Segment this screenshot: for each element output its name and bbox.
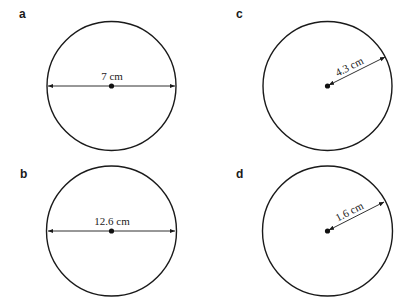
panel-a: a 7 cm: [19, 7, 176, 151]
center-dot-d: [325, 228, 330, 233]
measurement-label-a: 7 cm: [101, 70, 123, 82]
measurement-label-b: 12.6 cm: [94, 215, 130, 227]
panel-c: c 4.3 cm: [236, 7, 392, 151]
center-dot-c: [325, 83, 330, 88]
panel-label-b: b: [20, 167, 27, 181]
center-dot-b: [109, 228, 114, 233]
center-dot-a: [109, 83, 114, 88]
panel-b: b 12.6 cm: [20, 166, 177, 296]
panel-label-d: d: [236, 167, 243, 181]
panel-label-c: c: [236, 7, 243, 21]
panel-label-a: a: [19, 7, 26, 21]
circle-diagrams: a 7 cm b 12.6 cm c 4.3 cm d 1.6 cm: [0, 0, 407, 308]
panel-d: d 1.6 cm: [236, 166, 393, 296]
